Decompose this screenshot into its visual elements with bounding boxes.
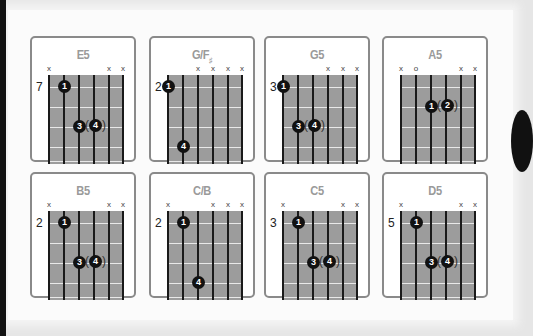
fretboard: 13(4) (48, 75, 123, 164)
chord-name: E5 (40, 47, 127, 65)
fret-line (48, 161, 123, 162)
muted-string-icon: x (457, 65, 465, 73)
fret-line (167, 87, 242, 88)
fret-line (400, 127, 475, 128)
string-line (445, 75, 447, 164)
open-string-icon: o (412, 65, 420, 73)
string-line (342, 75, 344, 164)
muted-string-icon: x (471, 65, 479, 73)
chord-name: G/F♯ (159, 47, 246, 65)
optional-finger: (4) (304, 119, 325, 132)
fret-number: 3 (270, 80, 277, 94)
finger-dot: 1 (292, 216, 305, 229)
finger-dot: 1 (177, 216, 190, 229)
fret-line (167, 243, 242, 244)
fret-number: 3 (270, 216, 277, 230)
chord-card: G/F♯2xxxx14 (149, 36, 255, 162)
muted-string-icon: x (471, 201, 479, 209)
string-line (227, 75, 229, 164)
string-line (122, 211, 124, 300)
muted-string-icon: x (339, 65, 347, 73)
muted-string-icon: x (224, 65, 232, 73)
fret-line (167, 107, 242, 108)
string-line (342, 211, 344, 300)
edge-shadow (511, 110, 533, 172)
muted-string-icon: x (397, 65, 405, 73)
muted-string-icon: x (194, 65, 202, 73)
fret-number: 5 (388, 216, 395, 230)
string-line (327, 75, 329, 164)
fret-line (282, 283, 357, 284)
finger-dot: 4 (89, 119, 102, 132)
fret-line (167, 161, 242, 162)
string-line (430, 75, 432, 164)
chord-name: B5 (40, 183, 127, 201)
chord-card: E57xxx13(4) (30, 36, 136, 162)
muted-string-icon: x (45, 65, 53, 73)
string-line (167, 211, 169, 300)
fret-line (167, 263, 242, 264)
muted-string-icon: x (224, 201, 232, 209)
muted-string-icon: x (279, 201, 287, 209)
fret-number: 7 (36, 80, 43, 94)
muted-string-icon: x (105, 65, 113, 73)
chord-card: A5xoxx1(2) (382, 36, 488, 162)
finger-dot: 4 (308, 119, 321, 132)
fret-line (282, 107, 357, 108)
muted-string-icon: x (324, 65, 332, 73)
fret-line (48, 147, 123, 148)
string-line (415, 75, 417, 164)
string-line (108, 75, 110, 164)
string-line (460, 211, 462, 300)
muted-string-icon: x (164, 201, 172, 209)
optional-finger: (4) (85, 119, 106, 132)
book-spine (0, 0, 6, 336)
finger-dot: 4 (192, 276, 205, 289)
fret-line (282, 87, 357, 88)
optional-finger: (4) (319, 255, 340, 268)
muted-string-icon: x (119, 201, 127, 209)
chord-name: G5 (274, 47, 361, 65)
finger-dot: 1 (162, 80, 175, 93)
string-line (460, 75, 462, 164)
string-line (400, 75, 402, 164)
fret-line (282, 161, 357, 162)
fret-line (48, 283, 123, 284)
fret-line (400, 147, 475, 148)
chord-card: D55xxx13(4) (382, 172, 488, 298)
finger-dot: 1 (410, 216, 423, 229)
chord-card: G53xxx13(4) (264, 36, 370, 162)
fretboard: 13(4) (48, 211, 123, 300)
muted-string-icon: x (238, 201, 246, 209)
finger-dot: 1 (58, 80, 71, 93)
muted-string-icon: x (397, 201, 405, 209)
optional-finger: (4) (85, 255, 106, 268)
string-line (122, 75, 124, 164)
optional-finger: (2) (437, 99, 458, 112)
fret-line (282, 147, 357, 148)
string-line (356, 75, 358, 164)
optional-finger: (4) (437, 255, 458, 268)
fretboard: 13(4) (282, 75, 357, 164)
chord-name: C/B (159, 183, 246, 201)
fret-number: 2 (36, 216, 43, 230)
fret-line (167, 127, 242, 128)
string-line (356, 211, 358, 300)
chord-card: C53xxx13(4) (264, 172, 370, 298)
fret-line (48, 297, 123, 298)
fretboard: 14 (167, 211, 242, 300)
muted-string-icon: x (238, 65, 246, 73)
string-line (282, 211, 284, 300)
string-line (241, 211, 243, 300)
finger-dot: 4 (89, 255, 102, 268)
chord-card: B52xxx13(4) (30, 172, 136, 298)
fret-line (282, 243, 357, 244)
fret-line (282, 297, 357, 298)
string-line (108, 211, 110, 300)
chord-name: A5 (392, 47, 479, 65)
muted-string-icon: x (119, 65, 127, 73)
string-line (197, 75, 199, 164)
fret-line (167, 297, 242, 298)
finger-dot: 4 (441, 255, 454, 268)
finger-dot: 4 (177, 140, 190, 153)
